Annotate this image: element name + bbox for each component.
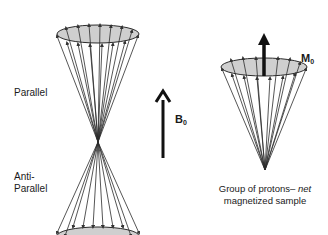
caption-line1: Group of protons– net (205, 183, 325, 195)
anti-parallel-label: Anti- Parallel (14, 171, 47, 195)
b0-label-main: B (175, 113, 183, 125)
caption-line2: magnetized sample (205, 195, 325, 207)
parallel-cone (57, 25, 139, 142)
caption-italic-net: net (298, 183, 311, 194)
m0-label: M0 (301, 52, 314, 68)
b0-label: B0 (175, 113, 187, 129)
parallel-label: Parallel (14, 87, 47, 99)
anti-parallel-label-line1: Anti- (14, 171, 47, 183)
m0-label-sub: 0 (310, 58, 314, 65)
anti-parallel-cone (57, 142, 139, 235)
b0-field-arrow (156, 91, 170, 158)
m0-label-main: M (301, 52, 310, 64)
caption-line1-text: Group of protons– (219, 183, 298, 194)
b0-label-sub: 0 (183, 119, 187, 126)
anti-parallel-label-line2: Parallel (14, 183, 47, 195)
net-magnetization-cone (221, 33, 307, 170)
net-magnetization-caption: Group of protons– net magnetized sample (205, 183, 325, 207)
